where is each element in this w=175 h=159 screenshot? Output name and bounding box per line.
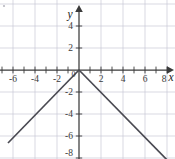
y-tick-label: 4: [68, 21, 73, 31]
origin-label: 0: [72, 70, 76, 79]
y-tick-label: -4: [65, 109, 73, 119]
x-tick-label: 6: [143, 74, 148, 84]
x-tick-label: 8: [162, 74, 167, 84]
curve-right-branch: [79, 70, 174, 159]
scan-speck: [3, 5, 5, 7]
x-tick-label: -4: [31, 74, 39, 84]
y-tick-label: 2: [68, 43, 73, 53]
x-axis: [0, 66, 174, 74]
x-tick-label: -2: [53, 74, 61, 84]
y-tick-label: -8: [65, 148, 73, 158]
x-tick-label: 2: [99, 74, 104, 84]
y-axis-name: y: [66, 8, 73, 21]
coordinate-plane-graph: -6 -4 -2 2 4 6 8 4 2 -2 -4 -6 -8 0 y x: [0, 0, 175, 159]
x-axis-name: x: [167, 71, 174, 83]
y-tick-label: -6: [65, 131, 73, 141]
y-axis: [75, 5, 83, 159]
horizontal-gridlines: [0, 4, 175, 158]
x-tick-label: -6: [9, 74, 17, 84]
y-axis-arrow: [75, 5, 83, 12]
y-tick-label: -2: [65, 87, 73, 97]
x-tick-label: 4: [121, 74, 126, 84]
y-tick-labels: 4 2 -2 -4 -6 -8: [65, 21, 73, 158]
